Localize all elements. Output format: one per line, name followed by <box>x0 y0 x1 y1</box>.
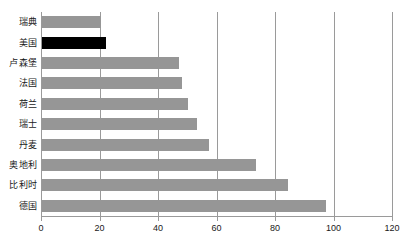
bar <box>42 200 326 212</box>
x-tick-label: 120 <box>377 223 403 233</box>
bar <box>42 179 288 191</box>
category-label: 奥地利 <box>0 160 37 170</box>
x-tick-mark <box>334 217 335 221</box>
category-label: 荷兰 <box>0 99 37 109</box>
x-tick-mark <box>392 217 393 221</box>
category-label: 美国 <box>0 38 37 48</box>
bar <box>42 139 209 151</box>
bar <box>42 57 179 69</box>
category-label: 德国 <box>0 201 37 211</box>
x-tick-mark <box>158 217 159 221</box>
x-tick-mark <box>275 217 276 221</box>
bar <box>42 118 197 130</box>
category-label: 法国 <box>0 78 37 88</box>
x-tick-label: 40 <box>143 223 173 233</box>
category-label: 瑞典 <box>0 17 37 27</box>
x-tick-mark <box>100 217 101 221</box>
gridline <box>392 12 393 216</box>
bar <box>42 77 182 89</box>
x-tick-mark <box>41 217 42 221</box>
x-tick-label: 0 <box>26 223 56 233</box>
category-axis: 瑞典美国卢森堡法国荷兰瑞士丹麦奥地利比利时德国 <box>0 12 41 216</box>
x-tick-label: 80 <box>260 223 290 233</box>
x-axis: 020406080100120 <box>41 217 392 239</box>
plot-area <box>41 12 393 217</box>
category-label: 比利时 <box>0 180 37 190</box>
bar <box>42 16 101 28</box>
bar <box>42 159 256 171</box>
bar-chart: 瑞典美国卢森堡法国荷兰瑞士丹麦奥地利比利时德国 020406080100120 <box>0 0 403 244</box>
category-label: 丹麦 <box>0 140 37 150</box>
bar <box>42 98 188 110</box>
gridline <box>334 12 335 216</box>
x-tick-label: 100 <box>319 223 349 233</box>
x-tick-label: 20 <box>85 223 115 233</box>
x-tick-label: 60 <box>202 223 232 233</box>
category-label: 瑞士 <box>0 119 37 129</box>
x-tick-mark <box>217 217 218 221</box>
bar <box>42 37 106 49</box>
category-label: 卢森堡 <box>0 58 37 68</box>
